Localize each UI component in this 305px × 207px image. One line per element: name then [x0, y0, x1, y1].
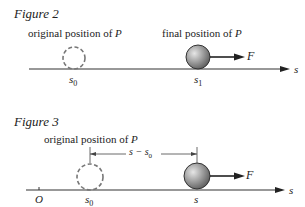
fig3-original-text: original position of	[44, 133, 128, 145]
fig3-tick-s0: s0	[85, 193, 93, 207]
figure2-title: Figure 2	[14, 6, 59, 22]
fig2-original-text: original position of	[28, 27, 112, 39]
fig3-dim-arrow-right-icon	[191, 152, 197, 156]
fig2-axis-label: s	[294, 63, 298, 75]
figure3-title: Figure 3	[14, 114, 59, 130]
fig2-point-p: P	[115, 27, 122, 39]
fig2-point-p2: P	[235, 27, 242, 39]
fig3-force-label: F	[246, 168, 253, 183]
fig3-original-position-circle	[77, 164, 103, 190]
fig3-distance-label: s − s0	[129, 146, 152, 160]
fig3-axis-arrow-icon	[275, 187, 285, 193]
fig3-force-arrowhead-icon	[234, 173, 245, 180]
fig2-tick-s1: s1	[194, 73, 202, 88]
fig3-axis-label: s	[289, 184, 293, 196]
fig3-original-label: original position of P	[44, 133, 138, 145]
fig3-point-p: P	[131, 133, 138, 145]
fig2-final-label: final position of P	[162, 27, 242, 39]
fig2-force-arrowhead-icon	[234, 54, 245, 61]
fig3-tick-s: s	[194, 193, 198, 205]
fig2-tick-s0: s0	[69, 73, 77, 88]
fig3-distance-text: s − s	[129, 146, 149, 157]
fig2-original-position-circle	[63, 47, 85, 69]
fig3-ball	[184, 163, 210, 189]
fig3-origin-label: O	[35, 193, 43, 205]
fig2-s0-sub: 0	[73, 79, 77, 88]
fig2-ball	[186, 45, 210, 69]
fig2-final-text: final position of	[162, 27, 232, 39]
fig2-force-label: F	[247, 49, 254, 64]
fig3-distance-sub: 0	[149, 152, 153, 160]
fig3-dim-arrow-left-icon	[90, 152, 96, 156]
fig2-axis-arrow-icon	[280, 66, 290, 72]
fig2-s1-sub: 1	[198, 79, 202, 88]
fig2-original-label: original position of P	[28, 27, 122, 39]
fig3-s0-sub: 0	[89, 199, 93, 207]
